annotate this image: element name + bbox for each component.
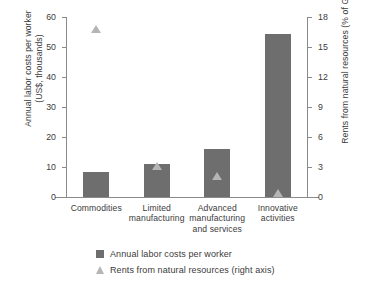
x-axis-category-label: Innovative activities bbox=[248, 203, 309, 224]
y-axis-left-tick-label: 50 bbox=[22, 43, 56, 52]
marker-advanced-manufacturing-and-services[interactable] bbox=[212, 172, 222, 180]
y-axis-left-line bbox=[66, 17, 67, 198]
y-axis-left-tick bbox=[62, 137, 66, 138]
y-axis-right-tick bbox=[308, 47, 312, 48]
chart-container: Annual labor costs per worker (US$, thou… bbox=[0, 0, 370, 285]
marker-commodities[interactable] bbox=[91, 25, 101, 33]
x-axis-category-label: Commodities bbox=[66, 203, 127, 213]
x-axis-category-label: Limited manufacturing bbox=[127, 203, 188, 224]
legend-item-natural-resource-rents[interactable]: Rents from natural resources (right axis… bbox=[0, 262, 370, 278]
y-axis-right-tick bbox=[308, 77, 312, 78]
y-axis-right-tick-label: 15 bbox=[318, 43, 352, 52]
y-axis-left-tick bbox=[62, 17, 66, 18]
legend-item-labor-costs[interactable]: Annual labor costs per worker bbox=[0, 246, 370, 262]
y-axis-right-tick-label: 18 bbox=[318, 13, 352, 22]
bar-innovative-activities[interactable] bbox=[265, 34, 291, 197]
y-axis-right-tick bbox=[308, 137, 312, 138]
y-axis-left-tick-label: 40 bbox=[22, 73, 56, 82]
x-axis-category-label: Advanced manufacturing and services bbox=[187, 203, 248, 234]
x-axis-line bbox=[55, 197, 319, 198]
y-axis-right-tick bbox=[308, 167, 312, 168]
y-axis-right-tick-label: 12 bbox=[318, 73, 352, 82]
marker-limited-manufacturing[interactable] bbox=[152, 162, 162, 170]
marker-innovative-activities[interactable] bbox=[273, 189, 283, 197]
y-axis-right-tick-label: 3 bbox=[318, 163, 352, 172]
y-axis-left-tick bbox=[62, 107, 66, 108]
legend-item-label: Rents from natural resources (right axis… bbox=[110, 265, 275, 275]
y-axis-left-tick bbox=[62, 47, 66, 48]
legend-item-label: Annual labor costs per worker bbox=[110, 249, 232, 259]
y-axis-right-tick-label: 0 bbox=[318, 193, 352, 202]
y-axis-left-tick-label: 0 bbox=[22, 193, 56, 202]
y-axis-left-tick-label: 20 bbox=[22, 133, 56, 142]
legend-bar-swatch-icon bbox=[96, 250, 104, 258]
y-axis-left-tick bbox=[62, 197, 66, 198]
plot-area: 60 50 40 30 20 10 0 18 15 12 9 6 3 0 bbox=[66, 17, 308, 197]
y-axis-left-tick-label: 10 bbox=[22, 163, 56, 172]
y-axis-left-tick-label: 30 bbox=[22, 103, 56, 112]
y-axis-left-tick bbox=[62, 77, 66, 78]
y-axis-left-tick bbox=[62, 167, 66, 168]
y-axis-left-tick-label: 60 bbox=[22, 13, 56, 22]
y-axis-right-tick-label: 6 bbox=[318, 133, 352, 142]
y-axis-right-tick bbox=[308, 197, 312, 198]
bar-commodities[interactable] bbox=[83, 172, 109, 197]
y-axis-right-tick bbox=[308, 17, 312, 18]
legend-triangle-swatch-icon bbox=[96, 266, 104, 274]
y-axis-right-tick bbox=[308, 107, 312, 108]
y-axis-right-tick-label: 9 bbox=[318, 103, 352, 112]
chart-legend: Annual labor costs per worker Rents from… bbox=[0, 246, 370, 278]
